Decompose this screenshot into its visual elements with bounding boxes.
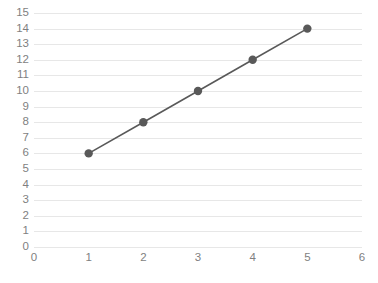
- plot-area: [34, 13, 362, 247]
- x-axis-tick-label: 3: [178, 252, 218, 264]
- data-point-marker: [194, 87, 202, 95]
- y-axis-tick-label: 6: [0, 148, 29, 160]
- x-axis-tick-labels: 0123456: [34, 252, 362, 272]
- y-axis-tick-label: 2: [0, 210, 29, 222]
- y-axis-tick-label: 1: [0, 226, 29, 238]
- y-axis-tick-label: 4: [0, 179, 29, 191]
- data-point-marker: [84, 149, 92, 157]
- chart-container: 0123456789101112131415 0123456: [0, 0, 378, 283]
- data-point-marker: [248, 56, 256, 64]
- y-axis-tick-label: 12: [0, 54, 29, 66]
- y-axis-tick-label: 14: [0, 23, 29, 35]
- x-axis-tick-label: 2: [123, 252, 163, 264]
- y-axis-tick-label: 15: [0, 7, 29, 19]
- y-axis-tick-label: 11: [0, 70, 29, 82]
- x-axis-tick-label: 5: [287, 252, 327, 264]
- x-axis-tick-label: 4: [233, 252, 273, 264]
- y-axis-tick-label: 3: [0, 194, 29, 206]
- x-axis-tick-label: 0: [14, 252, 54, 264]
- y-axis-tick-labels: 0123456789101112131415: [0, 13, 29, 247]
- gridline: [34, 247, 362, 248]
- y-axis-tick-label: 8: [0, 116, 29, 128]
- y-axis-tick-label: 10: [0, 85, 29, 97]
- y-axis-tick-label: 7: [0, 132, 29, 144]
- y-axis-tick-label: 13: [0, 38, 29, 50]
- y-axis-tick-label: 5: [0, 163, 29, 175]
- data-point-marker: [139, 118, 147, 126]
- data-layer: [34, 13, 362, 247]
- x-axis-tick-label: 1: [69, 252, 109, 264]
- x-axis-tick-label: 6: [342, 252, 378, 264]
- y-axis-tick-label: 9: [0, 101, 29, 113]
- series-markers: [84, 24, 311, 157]
- data-point-marker: [303, 24, 311, 32]
